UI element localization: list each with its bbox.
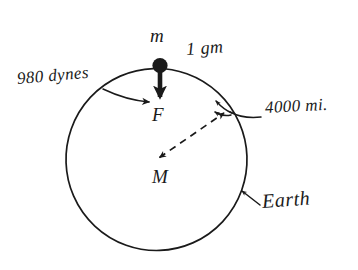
earth-mass-symbol-label: M [152, 167, 168, 186]
earth-name-label: Earth [261, 188, 310, 211]
force-callout-arrow [103, 89, 149, 102]
force-symbol-label: F [152, 105, 164, 124]
radius-callout-arrow [215, 101, 261, 117]
earth-callout-arrow [242, 191, 260, 205]
diagram-canvas [0, 0, 358, 270]
mass-value-label: 1 gm [185, 37, 224, 58]
radius-line [160, 113, 225, 158]
radius-value-label: 4000 mi. [265, 96, 329, 116]
mass-symbol-label: m [150, 26, 164, 45]
earth-circle [63, 65, 250, 253]
gravity-diagram: m 1 gm 980 dynes F M 4000 mi. Earth [0, 0, 358, 270]
mass-dot [152, 58, 167, 73]
